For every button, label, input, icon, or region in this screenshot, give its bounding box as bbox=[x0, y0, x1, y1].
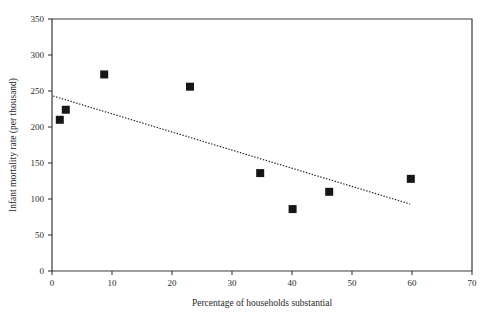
data-point-marker bbox=[407, 175, 415, 183]
y-tick-label: 0 bbox=[40, 266, 45, 276]
x-tick-label: 0 bbox=[50, 278, 55, 288]
data-point-marker bbox=[256, 169, 264, 177]
y-axis-label: Infant mortality rate (per thousand) bbox=[8, 78, 19, 212]
x-tick-label: 60 bbox=[408, 278, 418, 288]
chart-canvas: 010203040506070 050100150200250300350 Pe… bbox=[0, 0, 492, 326]
x-tick-label: 30 bbox=[228, 278, 238, 288]
y-tick-label: 200 bbox=[31, 122, 45, 132]
data-point-marker bbox=[62, 106, 70, 114]
data-point-marker bbox=[100, 70, 108, 78]
y-tick-label: 100 bbox=[31, 194, 45, 204]
y-tick-label: 350 bbox=[31, 14, 45, 24]
y-axis-ticks: 050100150200250300350 bbox=[31, 14, 53, 276]
x-tick-label: 50 bbox=[348, 278, 358, 288]
scatter-chart: 010203040506070 050100150200250300350 Pe… bbox=[0, 0, 492, 326]
trendline bbox=[53, 96, 410, 204]
plot-frame bbox=[52, 19, 472, 271]
x-axis-ticks: 010203040506070 bbox=[50, 271, 477, 288]
x-axis-label: Percentage of households substantial bbox=[192, 298, 332, 308]
data-point-marker bbox=[56, 116, 64, 124]
trendline-layer bbox=[53, 96, 410, 204]
y-tick-label: 250 bbox=[31, 86, 45, 96]
data-points-layer bbox=[56, 70, 415, 213]
data-point-marker bbox=[289, 205, 297, 213]
axes-layer bbox=[52, 19, 472, 271]
x-tick-label: 20 bbox=[168, 278, 178, 288]
x-tick-label: 40 bbox=[288, 278, 298, 288]
data-point-marker bbox=[325, 188, 333, 196]
x-tick-label: 10 bbox=[108, 278, 118, 288]
y-tick-label: 300 bbox=[31, 50, 45, 60]
x-tick-label: 70 bbox=[468, 278, 478, 288]
y-tick-label: 50 bbox=[35, 230, 45, 240]
data-point-marker bbox=[186, 83, 194, 91]
y-tick-label: 150 bbox=[31, 158, 45, 168]
